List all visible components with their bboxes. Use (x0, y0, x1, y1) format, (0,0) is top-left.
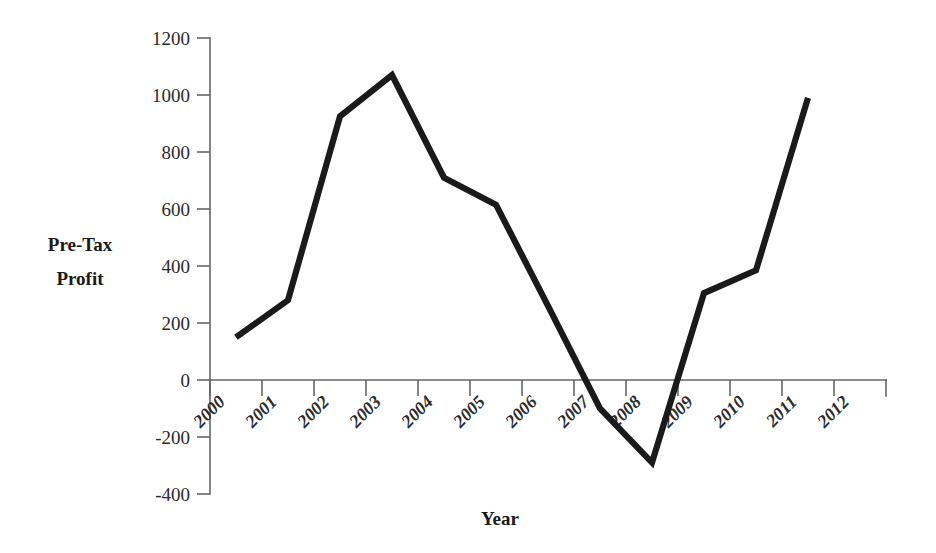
y-tick-label: 800 (162, 142, 191, 163)
x-tick-label: 2004 (397, 392, 437, 432)
x-tick-label: 2007 (553, 391, 594, 432)
x-tick-labels: 2000 2001 2002 2003 2004 2005 2006 2007 … (189, 391, 853, 432)
x-tick-label: 2006 (501, 392, 541, 432)
x-tick-label: 2012 (813, 392, 853, 432)
y-axis-title-line-1: Pre-Tax (20, 228, 140, 262)
y-tick-labels: 1200 1000 800 600 400 200 0 -200 -400 (152, 28, 190, 505)
line-chart: 1200 1000 800 600 400 200 0 -200 -400 (0, 0, 936, 553)
y-tick-label: 600 (162, 199, 191, 220)
y-axis-title: Pre-Tax Profit (20, 228, 140, 296)
y-axis-title-line-2: Profit (20, 262, 140, 296)
x-tick-label: 2000 (189, 392, 229, 432)
x-tick-marks (210, 380, 834, 396)
y-tick-label: 1200 (152, 28, 190, 49)
x-tick-label: 2005 (449, 392, 489, 432)
chart-page: 1200 1000 800 600 400 200 0 -200 -400 (0, 0, 936, 553)
x-tick-label: 2003 (345, 392, 385, 432)
x-tick-label: 2002 (293, 392, 333, 432)
y-tick-label: -200 (155, 427, 190, 448)
y-tick-label: 0 (181, 370, 191, 391)
x-tick-label: 2008 (605, 392, 645, 432)
y-tick-label: -400 (155, 484, 190, 505)
x-axis-title: Year (400, 508, 600, 530)
x-tick-label: 2011 (761, 392, 801, 432)
y-tick-label: 200 (162, 313, 191, 334)
y-tick-label: 400 (162, 256, 191, 277)
x-tick-label: 2001 (241, 392, 281, 432)
x-tick-label: 2010 (709, 392, 749, 432)
y-tick-label: 1000 (152, 85, 190, 106)
